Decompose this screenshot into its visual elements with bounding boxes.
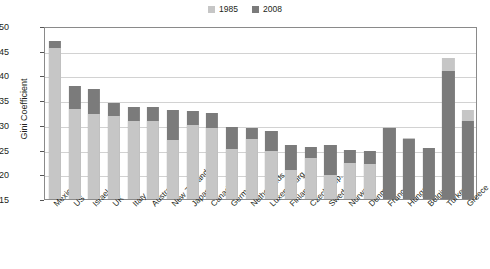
y-tick-label: 25 <box>0 146 9 156</box>
bar-1985 <box>206 128 218 199</box>
bar-2008 <box>462 121 474 199</box>
legend-swatch-1985 <box>208 6 215 13</box>
legend-label-1985: 1985 <box>219 5 238 14</box>
bar-1985 <box>147 121 159 199</box>
bar-group <box>458 28 478 199</box>
bar-1985 <box>246 139 258 199</box>
bar-group <box>301 28 321 199</box>
y-tick-label: 20 <box>0 170 9 180</box>
bar-1985 <box>324 175 336 199</box>
bar-1985 <box>226 149 238 199</box>
bar-group <box>380 28 400 199</box>
y-tick-label: 15 <box>0 195 9 205</box>
bar-1985 <box>364 164 376 199</box>
chart-legend: 1985 2008 <box>0 5 490 14</box>
legend-item-2008: 2008 <box>252 5 282 14</box>
bar-1985 <box>88 114 100 200</box>
bar-1985 <box>68 109 80 199</box>
bar-group <box>439 28 459 199</box>
bar-group <box>143 28 163 199</box>
bar-group <box>242 28 262 199</box>
y-tick-label: 50 <box>0 22 9 32</box>
legend-label-2008: 2008 <box>263 5 282 14</box>
x-axis-labels: MexicoUSIsraelUKItalyAustraliaNew Zealan… <box>44 202 477 269</box>
bar-group <box>65 28 85 199</box>
bar-group <box>340 28 360 199</box>
bar-1985 <box>305 158 317 199</box>
bar-1985 <box>127 121 139 199</box>
bar-group <box>222 28 242 199</box>
y-tick-label: 35 <box>0 96 9 106</box>
bar-series-container <box>45 28 476 199</box>
legend-item-1985: 1985 <box>208 5 238 14</box>
bar-1985 <box>285 170 297 199</box>
bar-group <box>104 28 124 199</box>
y-tick-mark <box>40 200 44 201</box>
bar-2008 <box>442 71 454 200</box>
bar-group <box>124 28 144 199</box>
bar-1985 <box>108 116 120 199</box>
plot-area <box>44 27 477 200</box>
y-tick-label: 30 <box>0 121 9 131</box>
bar-group <box>202 28 222 199</box>
legend-swatch-2008 <box>252 6 259 13</box>
bar-1985 <box>265 151 277 199</box>
y-axis-title: Gini Coefficient <box>19 44 29 174</box>
y-tick-label: 45 <box>0 47 9 57</box>
bar-group <box>45 28 65 199</box>
bar-2008 <box>403 139 415 199</box>
bar-group <box>84 28 104 199</box>
bar-group <box>163 28 183 199</box>
bar-group <box>360 28 380 199</box>
bar-1985 <box>187 125 199 199</box>
bar-group <box>399 28 419 199</box>
gini-coefficient-bar-chart: 1985 2008 Gini Coefficient 1520253035404… <box>0 0 490 269</box>
bar-1985 <box>167 140 179 199</box>
bar-2008 <box>423 148 435 199</box>
bar-1985 <box>49 48 61 199</box>
bar-2008 <box>383 128 395 199</box>
bar-group <box>419 28 439 199</box>
bar-1985 <box>344 163 356 199</box>
y-tick-label: 40 <box>0 71 9 81</box>
